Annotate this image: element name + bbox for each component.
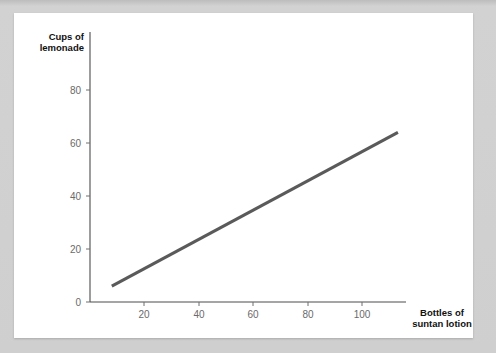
x-axis-title-line1: Bottles of bbox=[420, 307, 465, 318]
y-tick-label: 80 bbox=[70, 85, 82, 96]
chart-plot-area: 0 20 40 60 80 20 40 60 80 100 bbox=[14, 13, 473, 338]
x-tick-group: 20 40 60 80 100 bbox=[138, 302, 370, 320]
line-chart-svg: 0 20 40 60 80 20 40 60 80 100 bbox=[14, 13, 473, 338]
y-tick-label: 20 bbox=[70, 244, 82, 255]
y-axis-title: Cups of lemonade bbox=[40, 31, 85, 53]
x-tick-label: 20 bbox=[138, 309, 150, 320]
y-tick-group: 0 20 40 60 80 bbox=[70, 85, 90, 308]
data-series-line bbox=[112, 132, 398, 286]
x-axis-title-line2: suntan lotion bbox=[412, 318, 472, 329]
y-tick-label: 60 bbox=[70, 138, 82, 149]
x-tick-label: 40 bbox=[193, 309, 205, 320]
x-tick-label: 60 bbox=[247, 309, 259, 320]
y-axis-title-line1: Cups of bbox=[49, 31, 85, 42]
y-tick-label: 40 bbox=[70, 191, 82, 202]
x-axis-title: Bottles of suntan lotion bbox=[412, 307, 472, 329]
y-tick-label: 0 bbox=[75, 297, 81, 308]
chart-card: 0 20 40 60 80 20 40 60 80 100 bbox=[14, 13, 473, 338]
x-tick-label: 100 bbox=[354, 309, 371, 320]
y-axis-title-line2: lemonade bbox=[40, 42, 84, 53]
x-tick-label: 80 bbox=[302, 309, 314, 320]
